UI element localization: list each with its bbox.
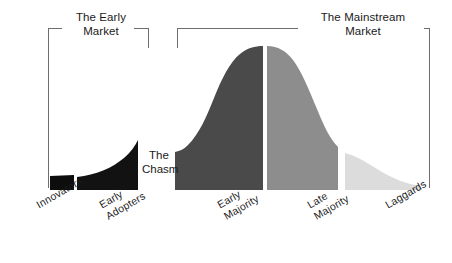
- bracket-layer: [0, 0, 452, 263]
- bracket-mainstream-market: [177, 28, 429, 188]
- bracket-label-early-market: The Early Market: [58, 10, 144, 38]
- bracket-early-market: [48, 28, 148, 188]
- chasm-label: The Chasm: [142, 148, 176, 176]
- adoption-curve-figure: The Early Market The Mainstream Market T…: [0, 0, 452, 263]
- bracket-label-mainstream-market: The Mainstream Market: [300, 10, 426, 38]
